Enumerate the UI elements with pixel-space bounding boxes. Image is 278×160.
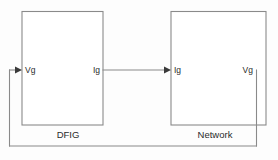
network-input-port-label: Ig [174,65,181,75]
dfig-input-port-label: Vg [25,65,36,75]
dfig-output-port-label: Ig [93,65,100,75]
dfig-block-caption: DFIG [57,129,80,140]
feedback-arrow-icon [15,67,22,74]
network-block-caption: Network [198,129,233,140]
forward-arrow-icon [164,67,171,74]
diagram-svg: Vg Ig Ig Vg DFIG Network [0,0,278,160]
network-output-port-label: Vg [243,65,254,75]
block-diagram-canvas: Vg Ig Ig Vg DFIG Network [0,0,278,160]
